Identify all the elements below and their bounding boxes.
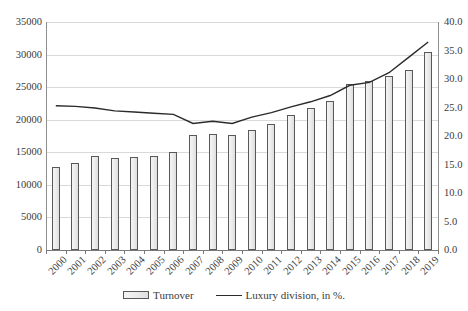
bar bbox=[130, 157, 138, 250]
y-axis-right-tick-label: 25.0 bbox=[444, 103, 462, 113]
bar bbox=[365, 81, 373, 250]
bar bbox=[169, 152, 177, 250]
chart-container: 05000100001500020000250003000035000 0.05… bbox=[0, 0, 468, 311]
bar bbox=[405, 70, 413, 250]
bar-slot bbox=[124, 22, 144, 250]
bar bbox=[111, 158, 119, 251]
x-axis-tickmark bbox=[438, 250, 439, 254]
bar bbox=[346, 84, 354, 250]
bar-slot bbox=[360, 22, 380, 250]
bar-slot bbox=[144, 22, 164, 250]
y-axis-right-tick-label: 5.0 bbox=[444, 217, 457, 227]
line-swatch-icon bbox=[216, 295, 242, 296]
bar-slot bbox=[379, 22, 399, 250]
bar bbox=[209, 134, 217, 250]
bar-slot bbox=[301, 22, 321, 250]
y-axis-right-tick-label: 0.0 bbox=[444, 245, 457, 255]
bar-slot bbox=[340, 22, 360, 250]
y-axis-right-tick-label: 15.0 bbox=[444, 160, 462, 170]
legend-item-luxury-division: Luxury division, in %. bbox=[216, 289, 345, 301]
bar-slot bbox=[262, 22, 282, 250]
bar-slot bbox=[320, 22, 340, 250]
bar-slot bbox=[85, 22, 105, 250]
bar-series-turnover bbox=[46, 22, 438, 250]
bar bbox=[189, 135, 197, 250]
bar bbox=[267, 124, 275, 250]
legend-item-turnover: Turnover bbox=[123, 289, 194, 301]
y-axis-right-tick-label: 30.0 bbox=[444, 74, 462, 84]
y-axis-left-line bbox=[46, 22, 47, 251]
bar-slot bbox=[399, 22, 419, 250]
bar-slot bbox=[183, 22, 203, 250]
y-axis-left-tick-label: 20000 bbox=[16, 115, 42, 125]
bar bbox=[91, 156, 99, 250]
y-axis-right-tick-label: 35.0 bbox=[444, 46, 462, 56]
y-axis-left-tick-label: 5000 bbox=[21, 212, 42, 222]
y-axis-right-tick-label: 10.0 bbox=[444, 188, 462, 198]
y-axis-left-tick-label: 35000 bbox=[16, 17, 42, 27]
plot-area bbox=[46, 22, 438, 250]
bar bbox=[71, 163, 79, 250]
y-axis-left-tick-label: 25000 bbox=[16, 82, 42, 92]
bar bbox=[385, 76, 393, 250]
bar-slot bbox=[105, 22, 125, 250]
bar-slot bbox=[203, 22, 223, 250]
bar-slot bbox=[66, 22, 86, 250]
bar bbox=[228, 135, 236, 250]
bar-slot bbox=[46, 22, 66, 250]
bar bbox=[52, 167, 60, 250]
bar-slot bbox=[281, 22, 301, 250]
legend-label-turnover: Turnover bbox=[153, 289, 194, 301]
bar bbox=[424, 52, 432, 250]
chart-legend: Turnover Luxury division, in %. bbox=[0, 289, 468, 301]
bar-slot bbox=[242, 22, 262, 250]
y-axis-left-tick-label: 30000 bbox=[16, 50, 42, 60]
bar bbox=[326, 101, 334, 250]
x-axis-labels: 2000200120022003200420052006200720082009… bbox=[46, 254, 438, 288]
y-axis-left-tick-label: 10000 bbox=[16, 180, 42, 190]
bar-slot bbox=[418, 22, 438, 250]
y-axis-right-line bbox=[438, 22, 439, 251]
bar-swatch-icon bbox=[123, 291, 149, 299]
y-axis-right-tick-label: 20.0 bbox=[444, 131, 462, 141]
bar-slot bbox=[164, 22, 184, 250]
y-axis-left-tick-label: 0 bbox=[37, 245, 42, 255]
bar bbox=[248, 130, 256, 251]
bar bbox=[150, 156, 158, 250]
legend-label-luxury-division: Luxury division, in %. bbox=[246, 289, 345, 301]
bar bbox=[307, 108, 315, 250]
y-axis-right-tick-label: 40.0 bbox=[444, 17, 462, 27]
y-axis-left-tick-label: 15000 bbox=[16, 147, 42, 157]
bar-slot bbox=[222, 22, 242, 250]
bar bbox=[287, 115, 295, 250]
